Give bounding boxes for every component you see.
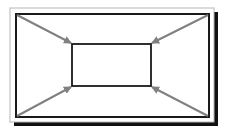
perspective-diagram <box>0 0 229 134</box>
inner-rectangle <box>72 44 151 86</box>
